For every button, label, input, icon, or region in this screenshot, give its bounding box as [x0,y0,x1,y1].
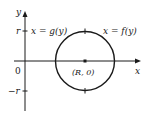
y-axis-arrow-icon [23,11,28,17]
curve-label-f: x = f(y) [103,26,137,36]
tick-label-neg-r: −r [8,86,21,96]
center-point [84,60,87,63]
center-label: (R, 0) [72,68,94,77]
y-axis-label: y [15,7,22,17]
tick-label-r: r [16,26,21,36]
x-axis-arrow-icon [135,59,141,64]
origin-label: 0 [15,66,21,76]
circle-diagram: y x 0 r −r (R, 0) x = g(y) x = f(y) [0,0,146,115]
x-axis [14,59,141,64]
x-axis-label: x [135,66,140,76]
curve-label-g: x = g(y) [31,26,68,36]
